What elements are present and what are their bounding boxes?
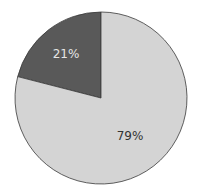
slice-label-light: 79% — [117, 129, 144, 143]
pie-chart: 21% 79% — [0, 0, 201, 196]
slice-label-dark: 21% — [53, 47, 80, 61]
pie-slices — [15, 12, 187, 184]
